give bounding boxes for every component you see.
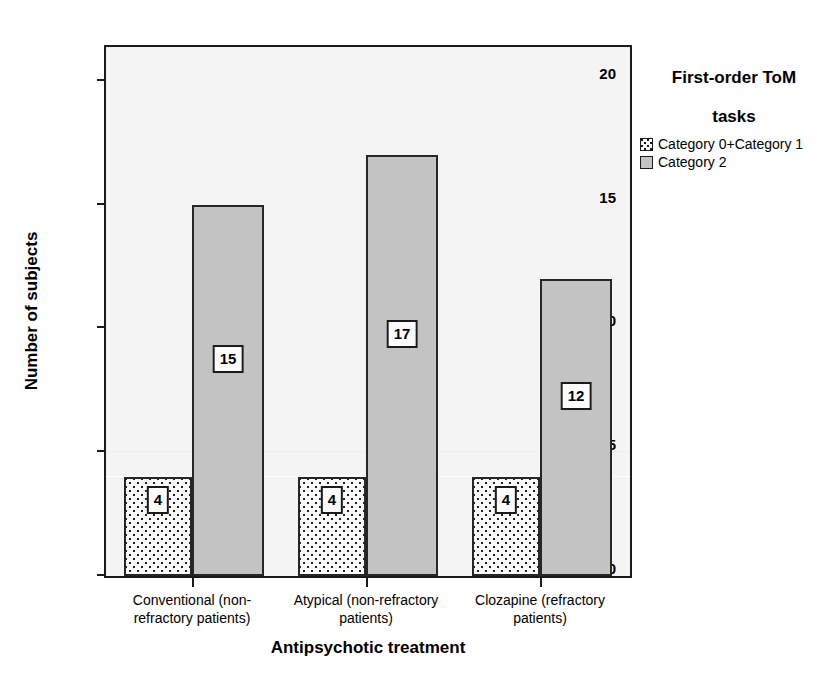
bar-label-atypical-category2: 17: [387, 320, 418, 348]
legend-item-category01[interactable]: Category 0+Category 1: [640, 136, 828, 152]
bar-label-clozapine-category2: 12: [561, 382, 592, 410]
y-tick-label-20: 20: [599, 64, 616, 81]
bar-label-conventional-category2: 15: [213, 345, 244, 373]
x-tick-mark-clozapine: [540, 576, 542, 587]
bar-label-clozapine-category01: 4: [495, 486, 517, 514]
bar-conventional-category2[interactable]: [192, 205, 264, 576]
legend-title-line1: First-order ToM: [672, 68, 796, 87]
x-category-label-conventional-line2: refractory patients): [134, 610, 251, 626]
bar-atypical-category2[interactable]: [366, 155, 438, 576]
chart-figure: Number of subjects 20 15 10 5 0 4 15 Con…: [0, 0, 831, 677]
legend-item-category2-label: Category 2: [658, 154, 726, 170]
x-category-label-clozapine-line2: patients): [513, 610, 567, 626]
legend-item-category01-label: Category 0+Category 1: [658, 136, 803, 152]
legend-item-category2[interactable]: Category 2: [640, 154, 828, 170]
y-tick-mark-0: [97, 574, 106, 576]
x-category-label-conventional-line1: Conventional (non-: [133, 592, 251, 608]
x-category-label-atypical-line1: Atypical (non-refractory: [294, 592, 439, 608]
legend-title-line2: tasks: [712, 107, 755, 126]
x-category-label-clozapine-line1: Clozapine (refractory: [475, 592, 605, 608]
y-tick-mark-15: [97, 203, 106, 205]
bar-label-atypical-category01: 4: [321, 486, 343, 514]
y-axis-title: Number of subjects: [22, 232, 42, 391]
x-category-label-conventional: Conventional (non- refractory patients): [92, 592, 292, 627]
x-category-label-atypical-line2: patients): [339, 610, 393, 626]
gray-swatch-icon: [640, 156, 653, 169]
x-tick-mark-atypical: [366, 576, 368, 587]
bar-label-conventional-category01: 4: [147, 486, 169, 514]
x-axis-title: Antipsychotic treatment: [271, 638, 466, 658]
x-category-label-atypical: Atypical (non-refractory patients): [266, 592, 466, 627]
y-tick-mark-5: [97, 450, 106, 452]
x-tick-mark-conventional: [192, 576, 194, 587]
y-tick-mark-10: [97, 326, 106, 328]
bar-clozapine-category2[interactable]: [540, 279, 612, 576]
x-category-label-clozapine: Clozapine (refractory patients): [440, 592, 640, 627]
dotted-swatch-icon: [640, 138, 653, 151]
plot-area: 20 15 10 5 0 4 15 Conventional (non- ref…: [104, 45, 632, 578]
legend-title: First-order ToM tasks: [640, 48, 828, 126]
y-tick-label-15: 15: [599, 188, 616, 205]
legend: First-order ToM tasks Category 0+Categor…: [640, 48, 828, 172]
y-tick-mark-20: [97, 79, 106, 81]
